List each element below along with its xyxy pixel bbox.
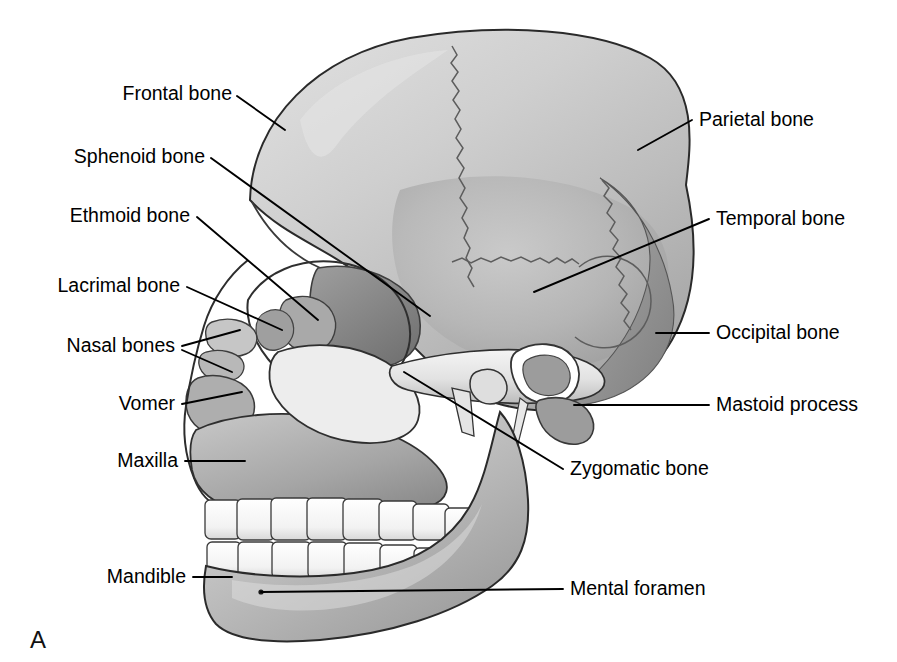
label-maxilla: Maxilla — [117, 449, 178, 471]
label-mandible: Mandible — [107, 565, 186, 587]
label-vomer: Vomer — [119, 392, 176, 414]
lacrimal-bone-region — [256, 310, 294, 351]
mandibular-condyle — [470, 369, 507, 404]
label-ethmoid-bone: Ethmoid bone — [70, 204, 190, 226]
label-frontal-bone: Frontal bone — [123, 82, 233, 104]
label-parietal-bone: Parietal bone — [699, 108, 814, 130]
skull-lateral-diagram: Frontal bone Sphenoid bone Ethmoid bone … — [0, 0, 897, 662]
label-zygomatic-bone: Zygomatic bone — [570, 457, 709, 479]
label-nasal-bones: Nasal bones — [67, 334, 176, 356]
label-temporal-bone: Temporal bone — [716, 207, 845, 229]
label-mental-foramen: Mental foramen — [570, 577, 705, 599]
upper-teeth-row — [205, 498, 479, 541]
label-occipital-bone: Occipital bone — [716, 321, 840, 343]
panel-label-a: A — [30, 626, 46, 653]
label-lacrimal-bone: Lacrimal bone — [58, 274, 180, 296]
leader-frontal-bone — [237, 96, 285, 130]
label-mastoid-process: Mastoid process — [716, 393, 858, 415]
figure-container: Frontal bone Sphenoid bone Ethmoid bone … — [0, 0, 897, 662]
skull-illustration — [184, 30, 693, 642]
label-sphenoid-bone: Sphenoid bone — [74, 145, 205, 167]
